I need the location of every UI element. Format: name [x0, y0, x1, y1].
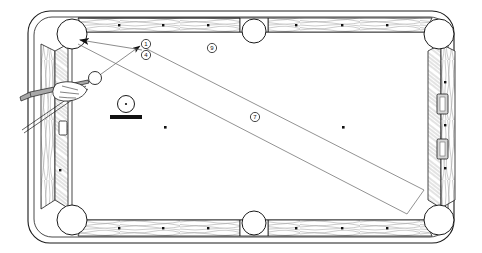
sight-plate-left: [59, 121, 67, 135]
rail-bottom-right: [268, 220, 432, 236]
pocket-bottom-middle[interactable]: [242, 211, 266, 235]
object-ball[interactable]: [118, 96, 135, 113]
pocket-top-left[interactable]: [57, 19, 87, 49]
rail-bottom-left: [78, 220, 240, 236]
pocket-top-middle[interactable]: [242, 19, 266, 43]
callout-4: 4: [141, 50, 150, 59]
cue-ball[interactable]: [89, 72, 102, 85]
pocket-bottom-right[interactable]: [424, 205, 454, 235]
pocket-top-right[interactable]: [424, 19, 454, 49]
rail-right: [428, 44, 455, 208]
pocket-bottom-left[interactable]: [57, 205, 87, 235]
pool-table-diagram: 1 4 9 7: [0, 0, 482, 253]
object-ball-base-bar: [110, 115, 142, 119]
rail-top-right: [268, 18, 432, 32]
callout-7: 7: [250, 112, 259, 121]
sight-plate-right-lower: [437, 139, 448, 159]
callout-1: 1: [141, 39, 150, 48]
callout-9: 9: [207, 43, 216, 52]
playing-surface: [72, 32, 439, 220]
rail-top-left: [78, 18, 240, 32]
sight-plate-right-upper: [437, 94, 448, 114]
